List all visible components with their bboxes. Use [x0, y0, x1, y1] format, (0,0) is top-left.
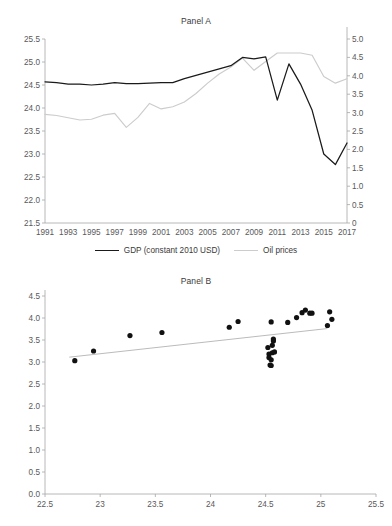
legend: GDP (constant 2010 USD) Oil prices — [0, 246, 392, 255]
scatter-point — [329, 317, 334, 322]
panel-b-y-tick-label: 3.5 — [29, 336, 41, 345]
panel-b-x-tick-label: 25 — [316, 500, 326, 509]
panel-a-right-tick-label: 0.5 — [352, 201, 364, 210]
panel-a-right-tick-label: 1.5 — [352, 164, 364, 173]
line-swatch-black-icon — [95, 250, 119, 251]
scatter-point — [159, 330, 164, 335]
panel-a-x-tick-label: 2011 — [269, 228, 287, 237]
scatter-point — [227, 325, 232, 330]
series-line-gdp — [45, 57, 347, 165]
panel-a-x-tick-label: 1999 — [129, 228, 148, 237]
legend-item-gdp[interactable]: GDP (constant 2010 USD) — [95, 246, 220, 255]
panel-a-left-tick-label: 23.5 — [24, 127, 40, 136]
panel-b-y-tick-label: 0.0 — [29, 490, 41, 499]
legend-label-oil: Oil prices — [263, 246, 297, 255]
panel-a-right-tick-label: 3.5 — [352, 90, 364, 99]
scatter-point — [72, 358, 77, 363]
panel-a-right-tick-label: 3.0 — [352, 109, 364, 118]
panel-b-y-tick-label: 2.5 — [29, 380, 41, 389]
panel-a-x-tick-label: 2005 — [199, 228, 218, 237]
scatter-point — [269, 319, 274, 324]
line-swatch-gray-icon — [234, 250, 258, 251]
scatter-point — [327, 309, 332, 314]
scatter-point — [265, 345, 270, 350]
panel-a-x-tick-label: 2017 — [338, 228, 357, 237]
panel-a-x-tick-label: 1993 — [59, 228, 78, 237]
panel-b-y-tick-label: 2.0 — [29, 402, 41, 411]
panel-b-y-tick-label: 3.0 — [29, 358, 41, 367]
panel-a-right-tick-label: 0 — [352, 219, 357, 228]
panel-b-y-tick-label: 4.0 — [29, 314, 41, 323]
panel-b-y-tick-label: 1.5 — [29, 424, 41, 433]
panel-a-left-tick-label: 21.5 — [24, 219, 40, 228]
panel-b-plot: 0.00.51.01.52.02.53.03.54.04.522.52323.5… — [0, 268, 392, 526]
legend-item-oil[interactable]: Oil prices — [234, 246, 297, 255]
panel-b-x-tick-label: 23.5 — [147, 500, 163, 509]
panel-a-x-tick-label: 1997 — [106, 228, 125, 237]
panel-a-x-tick-label: 2007 — [222, 228, 241, 237]
panel-b-x-tick-label: 22.5 — [37, 500, 53, 509]
panel-a-x-tick-label: 2015 — [315, 228, 334, 237]
scatter-point — [303, 307, 308, 312]
panel-b-x-tick-label: 24.5 — [258, 500, 274, 509]
panel-a-left-tick-label: 22.0 — [24, 196, 40, 205]
panel-b-y-tick-label: 0.5 — [29, 468, 41, 477]
figure-container: Panel A 21.522.022.523.023.524.024.525.0… — [0, 0, 392, 526]
scatter-point — [270, 343, 275, 348]
panel-a-right-tick-label: 1.0 — [352, 182, 364, 191]
panel-b-x-tick-label: 24 — [206, 500, 216, 509]
panel-a-x-tick-label: 2003 — [175, 228, 194, 237]
legend-label-gdp: GDP (constant 2010 USD) — [124, 246, 220, 255]
panel-a-x-tick-label: 2001 — [152, 228, 171, 237]
panel-a-left-tick-label: 25.0 — [24, 58, 40, 67]
scatter-point — [294, 315, 299, 320]
panel-b-x-tick-label: 23 — [96, 500, 106, 509]
scatter-point — [269, 363, 274, 368]
scatter-point — [127, 333, 132, 338]
scatter-point — [235, 319, 240, 324]
panel-a-right-tick-label: 2.5 — [352, 127, 364, 136]
panel-a-left-tick-label: 24.0 — [24, 104, 40, 113]
panel-a-right-tick-label: 5.0 — [352, 35, 364, 44]
panel-a-left-tick-label: 25.5 — [24, 35, 40, 44]
panel-a-x-tick-label: 1991 — [36, 228, 55, 237]
panel-a-x-tick-label: 2013 — [291, 228, 310, 237]
panel-a-right-tick-label: 2.0 — [352, 145, 364, 154]
panel-a-x-tick-label: 1995 — [82, 228, 101, 237]
panel-a-right-tick-label: 4.0 — [352, 72, 364, 81]
panel-b-trendline — [69, 329, 327, 358]
panel-a-x-tick-label: 2009 — [245, 228, 264, 237]
panel-a: Panel A 21.522.022.523.023.524.024.525.0… — [0, 0, 392, 268]
scatter-point — [309, 311, 314, 316]
scatter-point — [91, 348, 96, 353]
panel-b-y-tick-label: 1.0 — [29, 446, 41, 455]
panel-a-right-tick-label: 4.5 — [352, 53, 364, 62]
panel-b: Panel B 0.00.51.01.52.02.53.03.54.04.522… — [0, 268, 392, 526]
panel-b-x-tick-label: 25.5 — [368, 500, 384, 509]
scatter-point — [272, 349, 277, 354]
scatter-point — [271, 337, 276, 342]
series-line-oil-prices — [45, 53, 347, 127]
panel-a-left-tick-label: 23.0 — [24, 150, 40, 159]
panel-b-y-tick-label: 4.5 — [29, 292, 41, 301]
panel-a-left-tick-label: 22.5 — [24, 173, 40, 182]
scatter-point — [285, 320, 290, 325]
panel-a-plot: 21.522.022.523.023.524.024.525.025.500.5… — [0, 0, 392, 268]
panel-a-left-tick-label: 24.5 — [24, 81, 40, 90]
scatter-point — [325, 323, 330, 328]
scatter-point — [269, 357, 274, 362]
